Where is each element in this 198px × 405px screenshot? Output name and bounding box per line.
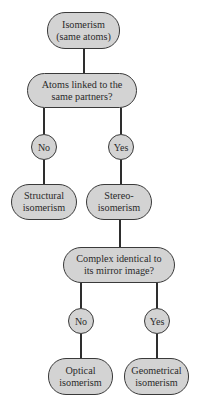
node-label-line2: its mirror image? bbox=[84, 265, 154, 277]
node-label-line2: isomerism bbox=[59, 377, 101, 389]
connector-yes-stereo bbox=[120, 160, 122, 184]
node-label-line2: isomerism bbox=[135, 377, 177, 389]
answer-no-1: No bbox=[31, 134, 57, 160]
node-geometrical-isomerism: Geometrical isomerism bbox=[124, 358, 189, 395]
node-label-line1: Atoms linked to the bbox=[42, 79, 123, 91]
node-label-line2: isomerism bbox=[98, 202, 140, 214]
answer-label: Yes bbox=[114, 142, 129, 153]
connector-no-structural bbox=[43, 160, 45, 184]
node-label-line1: Stereo- bbox=[104, 190, 133, 202]
node-label-line1: Isomerism bbox=[62, 19, 105, 31]
node-structural-isomerism: Structural isomerism bbox=[11, 184, 77, 220]
connector-yes-geometrical bbox=[156, 334, 158, 358]
answer-yes-2: Yes bbox=[144, 308, 170, 334]
node-stereoisomerism: Stereo- isomerism bbox=[86, 184, 152, 220]
node-label-line2: isomerism bbox=[23, 202, 65, 214]
answer-no-2: No bbox=[68, 308, 94, 334]
answer-label: Yes bbox=[150, 316, 165, 327]
connector-q1-no bbox=[43, 108, 45, 134]
connector-no-optical bbox=[80, 334, 82, 358]
connector-stereo-q2 bbox=[119, 220, 121, 247]
node-isomerism: Isomerism (same atoms) bbox=[47, 12, 120, 49]
connector-q2-yes bbox=[156, 283, 158, 308]
node-label-line2: (same atoms) bbox=[56, 31, 111, 43]
node-label-line1: Complex identical to bbox=[76, 253, 161, 265]
node-question-same-partners: Atoms linked to the same partners? bbox=[27, 73, 137, 108]
answer-label: No bbox=[75, 316, 87, 327]
node-label-line1: Optical bbox=[66, 365, 96, 377]
connector-q1-yes bbox=[120, 108, 122, 134]
node-label-line2: same partners? bbox=[52, 91, 113, 103]
node-optical-isomerism: Optical isomerism bbox=[48, 358, 113, 395]
node-label-line1: Geometrical bbox=[131, 365, 181, 377]
node-label-line1: Structural bbox=[24, 190, 64, 202]
answer-label: No bbox=[38, 142, 50, 153]
node-question-mirror-image: Complex identical to its mirror image? bbox=[63, 247, 175, 283]
connector-root-q1 bbox=[83, 48, 85, 73]
answer-yes-1: Yes bbox=[108, 134, 134, 160]
connector-q2-no bbox=[80, 283, 82, 308]
